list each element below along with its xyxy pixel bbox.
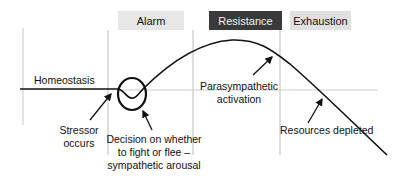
phase-resistance-box: Resistance xyxy=(209,11,282,30)
phase-exhaustion-box: Exhaustion xyxy=(290,11,351,30)
arrow-decision xyxy=(143,111,152,130)
phase-alarm-box: Alarm xyxy=(118,11,184,30)
homeostasis-label: Homeostasis xyxy=(34,74,95,87)
resources-depleted-label: Resources depleted xyxy=(280,124,373,137)
decision-label: Decision on whether to fight or flee – s… xyxy=(104,133,204,172)
arrow-parasympathetic xyxy=(253,57,272,75)
parasympathetic-label: Parasympathetic activation xyxy=(196,80,282,106)
alarm-dip-circle xyxy=(118,78,146,110)
stressor-label: Stressor occurs xyxy=(55,124,103,150)
arrow-resources xyxy=(308,99,322,123)
gas-diagram: Alarm Resistance Exhaustion Homeostasis … xyxy=(0,0,410,180)
